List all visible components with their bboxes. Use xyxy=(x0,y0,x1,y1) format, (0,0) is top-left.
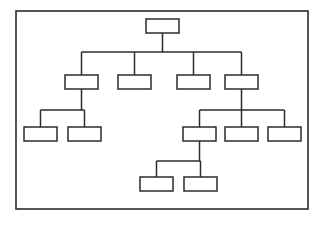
tree-diagram-canvas xyxy=(0,0,324,227)
tree-node-n10[interactable] xyxy=(140,177,173,191)
node-box-n2[interactable] xyxy=(118,75,151,89)
node-box-n5[interactable] xyxy=(24,127,57,141)
node-box-n9[interactable] xyxy=(268,127,301,141)
tree-node-n5[interactable] xyxy=(24,127,57,141)
node-box-n1[interactable] xyxy=(65,75,98,89)
tree-node-n3[interactable] xyxy=(177,75,210,89)
node-box-n0[interactable] xyxy=(146,19,179,33)
node-box-n11[interactable] xyxy=(184,177,217,191)
tree-node-n1[interactable] xyxy=(65,75,98,89)
node-box-n10[interactable] xyxy=(140,177,173,191)
tree-node-n0[interactable] xyxy=(146,19,179,33)
node-box-n8[interactable] xyxy=(225,127,258,141)
tree-node-n7[interactable] xyxy=(183,127,216,141)
tree-node-n2[interactable] xyxy=(118,75,151,89)
tree-node-n8[interactable] xyxy=(225,127,258,141)
tree-node-n4[interactable] xyxy=(225,75,258,89)
node-box-n4[interactable] xyxy=(225,75,258,89)
node-box-n7[interactable] xyxy=(183,127,216,141)
tree-node-n11[interactable] xyxy=(184,177,217,191)
tree-node-n9[interactable] xyxy=(268,127,301,141)
tree-node-n6[interactable] xyxy=(68,127,101,141)
node-box-n6[interactable] xyxy=(68,127,101,141)
node-box-n3[interactable] xyxy=(177,75,210,89)
